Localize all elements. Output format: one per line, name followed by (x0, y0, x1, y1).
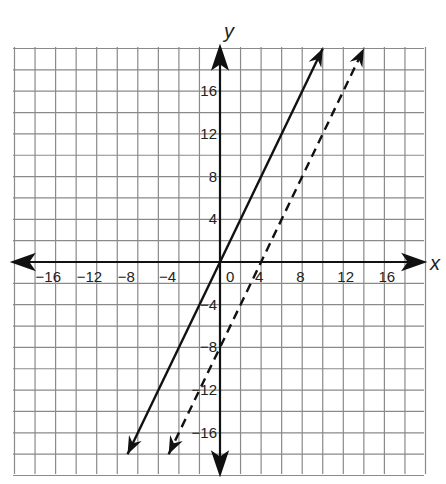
y-axis-label: y (224, 20, 234, 43)
y-tick-label: 16 (200, 83, 217, 98)
x-tick-label: −8 (118, 269, 135, 284)
x-tick-label: −4 (159, 269, 176, 284)
x-axis-label: x (430, 252, 440, 275)
x-tick-label: −16 (36, 269, 61, 284)
arrowhead-up-icon (350, 49, 364, 68)
axes (13, 47, 424, 474)
plotted-lines (128, 49, 364, 455)
x-tick-label: −12 (77, 269, 102, 284)
y-tick-label: −12 (192, 382, 217, 397)
solid-line (128, 49, 323, 455)
y-tick-label: −8 (200, 339, 217, 354)
coordinate-plane (0, 0, 446, 484)
x-tick-label: 12 (337, 269, 354, 284)
x-tick-label: 0 (226, 269, 234, 284)
y-tick-label: 8 (209, 169, 217, 184)
x-tick-label: 8 (296, 269, 304, 284)
y-tick-label: 4 (209, 211, 217, 226)
x-tick-label: 16 (378, 269, 395, 284)
y-tick-label: −16 (192, 425, 217, 440)
y-tick-label: 12 (200, 126, 217, 141)
x-tick-label: 4 (255, 269, 263, 284)
y-tick-label: −4 (200, 297, 217, 312)
